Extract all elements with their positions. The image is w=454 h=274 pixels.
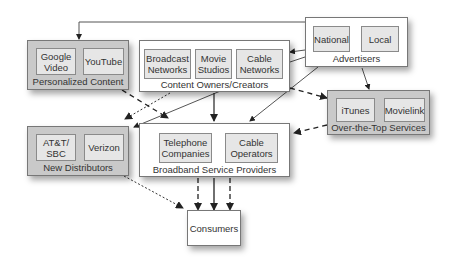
node-google-video: Google Video bbox=[36, 48, 76, 75]
node-cable-networks: Cable Networks bbox=[236, 49, 283, 79]
edge-content-ott bbox=[290, 88, 327, 98]
group-label: Advertisers bbox=[306, 53, 407, 64]
group-label: Broadband Service Providers bbox=[140, 164, 289, 175]
node-cable-operators: Cable Operators bbox=[225, 133, 278, 163]
group-advertisers: National Local Advertisers bbox=[305, 17, 408, 67]
edge-advertisers-personalized bbox=[79, 22, 305, 39]
node-movielink: Movielink bbox=[384, 98, 425, 122]
group-content-owners: Broadcast Networks Movie Studios Cable N… bbox=[139, 40, 290, 92]
group-label: New Distributors bbox=[28, 162, 128, 173]
group-broadband-providers: Telephone Companies Cable Operators Broa… bbox=[139, 123, 290, 177]
edge-ott-broadband bbox=[294, 125, 327, 133]
node-att-sbc: AT&T/ SBC bbox=[36, 134, 76, 161]
node-national: National bbox=[313, 26, 350, 52]
node-local: Local bbox=[361, 26, 399, 52]
edge-personalized-broadband bbox=[122, 90, 168, 118]
edge-content-newdist bbox=[125, 93, 170, 119]
node-consumers: Consumers bbox=[187, 210, 241, 246]
group-label: Personalized Content bbox=[28, 76, 128, 87]
edge-newdist-consumers bbox=[124, 176, 183, 208]
edge-advertisers-content bbox=[290, 50, 305, 52]
node-youtube: YouTube bbox=[83, 48, 124, 75]
node-verizon: Verizon bbox=[84, 134, 124, 161]
group-personalized-content: Google Video YouTube Personalized Conten… bbox=[27, 40, 129, 90]
group-label: Content Owners/Creators bbox=[140, 79, 289, 90]
group-ott-services: iTunes Movielink Over-the-Top Services bbox=[327, 90, 430, 135]
node-movie-studios: Movie Studios bbox=[195, 49, 232, 79]
node-itunes: iTunes bbox=[336, 98, 375, 122]
group-label: Over-the-Top Services bbox=[328, 122, 429, 133]
node-broadcast-networks: Broadcast Networks bbox=[144, 49, 191, 79]
group-new-distributors: AT&T/ SBC Verizon New Distributors bbox=[27, 126, 129, 176]
edge-advertisers-ott bbox=[362, 68, 369, 89]
node-telephone-companies: Telephone Companies bbox=[159, 133, 212, 163]
